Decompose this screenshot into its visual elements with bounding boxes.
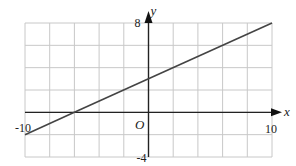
x-axis-label: x <box>283 104 290 119</box>
line-graph: 8 y -10 O 10 x -4 <box>0 0 296 166</box>
origin-label: O <box>135 117 145 132</box>
axis-labels: 8 y -10 O 10 x -4 <box>15 3 290 165</box>
y-max-tick-label: 8 <box>135 16 141 30</box>
x-min-tick-label: -10 <box>15 121 31 135</box>
x-axis-arrow-icon <box>271 108 282 116</box>
x-max-tick-label: 10 <box>265 122 277 136</box>
y-min-tick-label: -4 <box>137 151 147 165</box>
y-axis-label: y <box>149 3 157 18</box>
